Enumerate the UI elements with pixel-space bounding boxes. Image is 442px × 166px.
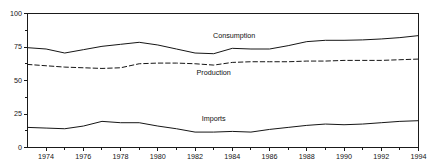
line-chart: 0255075100 19741976197819801982198419861… [0,0,442,166]
series-labels-group: ConsumptionProductionImports [197,31,256,123]
series-label-imports: Imports [202,114,226,123]
x-axis-tick-label: 1978 [113,152,129,161]
y-axis-tick-label: 25 [14,109,22,118]
x-axis-tick-label: 1992 [373,152,389,161]
x-axis-tick-label: 1986 [262,152,278,161]
chart-container: 0255075100 19741976197819801982198419861… [0,0,442,166]
x-axis-tick-label: 1974 [38,152,54,161]
y-axis-tick-label: 100 [10,9,22,18]
series-label-consumption: Consumption [213,31,255,40]
x-axis-tick-label: 1982 [187,152,203,161]
x-axis-ticks: 1974197619781980198219841986198819901992… [38,148,426,162]
y-axis-tick-label: 0 [18,143,22,152]
x-axis-tick-label: 1988 [299,152,315,161]
x-axis-tick-label: 1984 [224,152,240,161]
series-label-production: Production [197,68,231,77]
y-axis-ticks: 0255075100 [10,9,28,152]
x-axis-tick-label: 1994 [411,152,427,161]
y-axis-tick-label: 75 [14,42,22,51]
series-line-production [28,59,419,68]
x-axis-tick-label: 1980 [150,152,166,161]
x-axis-tick-label: 1976 [75,152,91,161]
y-axis-tick-label: 50 [14,76,22,85]
x-axis-tick-label: 1990 [336,152,352,161]
